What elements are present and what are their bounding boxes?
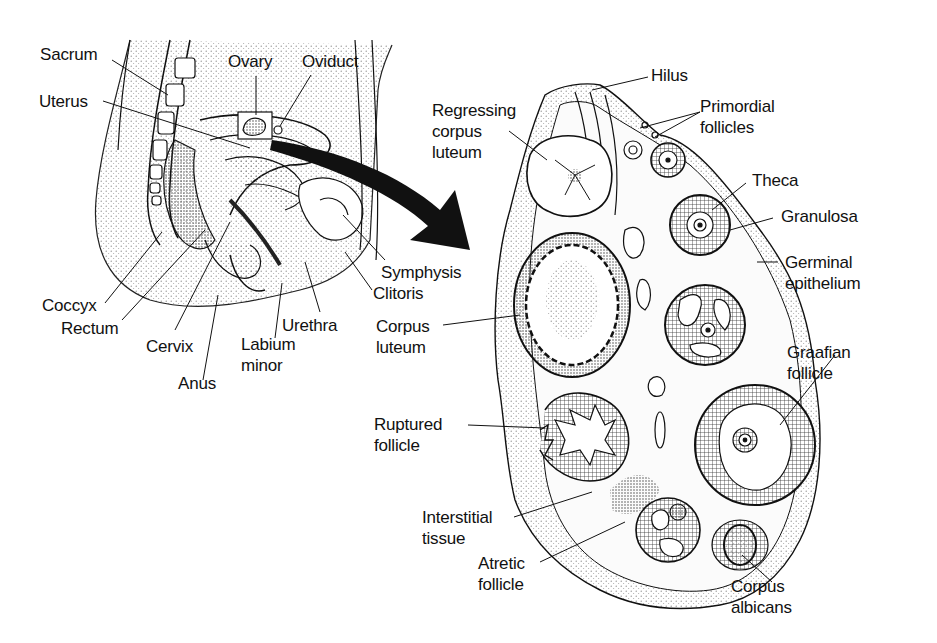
label-regressing-line2: corpus	[432, 121, 516, 142]
label-granulosa: Granulosa	[781, 206, 858, 227]
label-corpus-luteum-line2: luteum	[376, 337, 430, 358]
label-urethra: Urethra	[282, 315, 337, 336]
label-ruptured-line2: follicle	[374, 435, 442, 456]
label-anus: Anus	[178, 373, 216, 394]
label-albicans-line1: Corpus	[731, 576, 792, 597]
label-albicans-line2: albicans	[731, 597, 792, 618]
label-theca: Theca	[752, 170, 798, 191]
label-interstitial-tissue: Interstitial tissue	[422, 507, 492, 549]
label-germinal-epithelium: Germinal epithelium	[785, 252, 861, 294]
label-labium-minor-line1: Labium	[241, 334, 296, 355]
label-corpus-luteum-line1: Corpus	[376, 316, 430, 337]
label-graafian-line1: Graafian	[787, 342, 851, 363]
label-labium-minor-line2: minor	[241, 355, 296, 376]
label-clitoris: Clitoris	[373, 283, 423, 304]
label-ruptured-follicle: Ruptured follicle	[374, 414, 442, 456]
label-oviduct: Oviduct	[302, 51, 358, 72]
label-graafian-follicle: Graafian follicle	[787, 342, 851, 384]
label-germinal-line1: Germinal	[785, 252, 861, 273]
label-regressing-corpus-luteum: Regressing corpus luteum	[432, 100, 516, 163]
label-regressing-line3: luteum	[432, 142, 516, 163]
label-interstitial-line2: tissue	[422, 528, 492, 549]
label-uterus: Uterus	[39, 91, 88, 112]
label-atretic-line2: follicle	[478, 574, 525, 595]
label-primordial-follicles: Primordial follicles	[700, 96, 775, 138]
label-graafian-line2: follicle	[787, 363, 851, 384]
label-sacrum: Sacrum	[40, 44, 97, 65]
label-atretic-follicle: Atretic follicle	[478, 553, 525, 595]
label-atretic-line1: Atretic	[478, 553, 525, 574]
label-interstitial-line1: Interstitial	[422, 507, 492, 528]
label-ruptured-line1: Ruptured	[374, 414, 442, 435]
label-symphysis: Symphysis	[381, 262, 461, 283]
label-cervix: Cervix	[146, 336, 193, 357]
label-hilus: Hilus	[651, 65, 688, 86]
label-regressing-line1: Regressing	[432, 100, 516, 121]
label-primordial-line2: follicles	[700, 117, 775, 138]
label-coccyx: Coccyx	[42, 295, 97, 316]
label-corpus-luteum: Corpus luteum	[376, 316, 430, 358]
label-germinal-line2: epithelium	[785, 273, 861, 294]
label-corpus-albicans: Corpus albicans	[731, 576, 792, 618]
ovary-anatomy-diagram: Sacrum Ovary Oviduct Uterus Coccyx Rectu…	[0, 0, 937, 643]
label-labium-minor: Labium minor	[241, 334, 296, 376]
label-primordial-line1: Primordial	[700, 96, 775, 117]
label-rectum: Rectum	[61, 318, 118, 339]
label-ovary: Ovary	[228, 51, 272, 72]
ovary-illustration	[495, 84, 820, 609]
